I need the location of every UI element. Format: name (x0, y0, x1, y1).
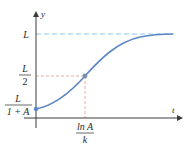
x-tick-lnA-den: k (83, 134, 88, 145)
y-axis-label: y (40, 9, 45, 19)
y-tick-half-den: 2 (23, 76, 28, 87)
logistic-curve (36, 34, 173, 109)
initial-point (34, 107, 38, 111)
y-tick-start-den: 1 + A (7, 106, 31, 117)
inflection-point (83, 74, 88, 79)
y-tick-start-num: L (14, 93, 21, 104)
y-tick-half-num: L (21, 63, 28, 74)
y-tick-L: L (22, 29, 29, 40)
x-tick-lnA-num: ln A (77, 121, 94, 132)
logistic-curve-diagram: y t L L 2 L 1 + A ln A k (0, 0, 188, 149)
x-axis-label: t (172, 105, 175, 115)
